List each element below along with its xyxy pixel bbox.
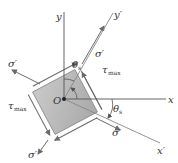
y-prime-axis	[64, 13, 113, 99]
origin-dot	[62, 97, 66, 101]
x-prime-axis-label: x′	[157, 145, 166, 156]
svg-text:s: s	[78, 64, 81, 71]
sigma-prime-label-top: σ′	[95, 48, 105, 59]
theta-s-label-top: θ s	[72, 59, 81, 71]
origin-label: O	[53, 95, 61, 106]
sigma-prime-label-bottom: σ′	[28, 149, 38, 160]
tau-max-label-right: τ max	[102, 64, 121, 76]
stress-element-diagram: O y x y′ x′ σ′ σ′ σ′ σ′ τ max τ max θ s …	[0, 0, 178, 163]
sigma-prime-label-right: σ′	[112, 127, 122, 138]
y-axis-label: y	[55, 11, 62, 22]
svg-text:s: s	[119, 108, 122, 115]
sigma-prime-label-left: σ′	[8, 58, 18, 69]
theta-s-label-right: θ s	[113, 103, 122, 115]
svg-text:max: max	[108, 69, 121, 76]
tau-max-label-left: τ max	[8, 100, 27, 112]
x-axis-label: x	[168, 94, 174, 105]
y-prime-axis-label: y′	[113, 9, 123, 20]
svg-text:max: max	[14, 105, 27, 112]
